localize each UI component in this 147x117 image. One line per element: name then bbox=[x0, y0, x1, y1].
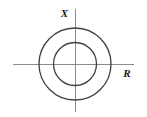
reactance-axis-label: X bbox=[60, 7, 69, 19]
concentric-circles-diagram: X R bbox=[0, 0, 147, 117]
figure-container: X R bbox=[0, 0, 147, 117]
resistance-axis-label: R bbox=[122, 67, 130, 79]
